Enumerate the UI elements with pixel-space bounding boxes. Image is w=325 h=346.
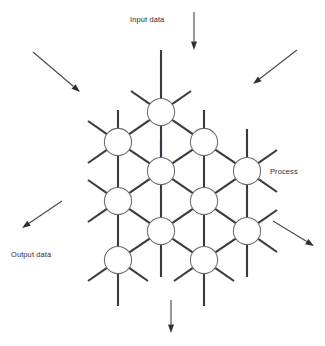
arrow-input-right-shaft (260, 50, 297, 79)
node-stub-line (88, 150, 107, 163)
lattice-link (172, 120, 193, 134)
lattice-link (129, 209, 150, 223)
arrow-input-left-shaft (33, 52, 74, 86)
lattice-link (172, 209, 193, 223)
lattice-link (172, 150, 192, 164)
node-stub-line (129, 268, 148, 281)
process-node[interactable] (190, 128, 217, 155)
arrow-output-right-shaft (273, 221, 307, 242)
node-stub-line (88, 121, 107, 134)
node-stub-line (215, 268, 234, 281)
process-node[interactable] (233, 157, 260, 184)
process-node[interactable] (147, 98, 174, 125)
process-node[interactable] (147, 157, 174, 184)
lattice-link (215, 150, 235, 164)
arrow-output-left-shaft (29, 201, 62, 223)
lattice-link (129, 239, 149, 253)
output-data-label: Output data (11, 250, 52, 259)
process-node[interactable] (104, 246, 131, 273)
process-label: Process (270, 167, 298, 176)
arrow-output-bottom-head (168, 325, 174, 334)
lattice-link (215, 239, 235, 253)
node-stub-line (88, 180, 107, 193)
lattice-link (172, 179, 193, 193)
lattice-link (215, 209, 236, 223)
arrow-output-left-head (22, 221, 31, 228)
process-node[interactable] (233, 217, 260, 244)
arrow-input-top-head (191, 42, 197, 51)
lattice-link (129, 150, 149, 164)
node-stub-line (174, 268, 193, 281)
lattice-link (172, 239, 192, 253)
node-stub-line (258, 239, 277, 252)
process-node[interactable] (104, 128, 131, 155)
arrow-input-right-head (253, 76, 262, 84)
arrow-output-right-head (305, 239, 314, 246)
node-stub-line (172, 91, 191, 104)
lattice-link (129, 120, 150, 134)
lattice-link (215, 179, 236, 193)
input-data-label: Input data (130, 15, 165, 24)
process-node[interactable] (147, 217, 174, 244)
node-stub-line (258, 179, 277, 192)
process-node[interactable] (190, 246, 217, 273)
node-stub-line (258, 150, 277, 163)
lattice-links-layer (118, 120, 247, 253)
node-stub-line (88, 209, 107, 222)
process-node[interactable] (104, 187, 131, 214)
node-stub-line (131, 91, 150, 104)
diagram-canvas: Input dataOutput dataProcess (0, 0, 325, 346)
process-node[interactable] (190, 187, 217, 214)
lattice-link (129, 179, 150, 193)
node-stub-line (88, 268, 107, 281)
process-lattice-diagram: Input dataOutput dataProcess (0, 0, 325, 346)
